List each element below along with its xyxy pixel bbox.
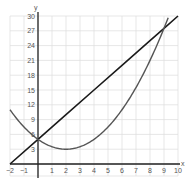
y-tick-label: 24 bbox=[27, 42, 35, 49]
x-tick-label: 3 bbox=[78, 167, 82, 174]
parabola-series bbox=[10, 18, 168, 149]
y-tick-label: 27 bbox=[27, 27, 35, 34]
grid-lines bbox=[10, 16, 178, 176]
y-tick-label: 15 bbox=[27, 87, 35, 94]
x-tick-label: −1 bbox=[20, 167, 28, 174]
x-tick-labels: −2−112345678910 bbox=[6, 167, 182, 174]
y-tick-label: 9 bbox=[31, 116, 35, 123]
x-tick-label: 10 bbox=[174, 167, 182, 174]
x-tick-label: 6 bbox=[120, 167, 124, 174]
y-tick-label: 30 bbox=[27, 13, 35, 20]
x-axis-label: x bbox=[181, 160, 185, 167]
y-tick-label: 12 bbox=[27, 101, 35, 108]
x-tick-label: 2 bbox=[64, 167, 68, 174]
y-tick-label: 21 bbox=[27, 57, 35, 64]
x-tick-label: −2 bbox=[6, 167, 14, 174]
x-tick-label: 9 bbox=[162, 167, 166, 174]
x-tick-label: 1 bbox=[50, 167, 54, 174]
chart: −2−112345678910 36912151821242730 x y bbox=[0, 0, 193, 182]
x-tick-label: 8 bbox=[148, 167, 152, 174]
y-tick-label: 3 bbox=[31, 146, 35, 153]
x-tick-label: 5 bbox=[106, 167, 110, 174]
x-tick-label: 4 bbox=[92, 167, 96, 174]
x-tick-label: 7 bbox=[134, 167, 138, 174]
y-tick-label: 18 bbox=[27, 72, 35, 79]
y-axis-label: y bbox=[34, 4, 38, 12]
